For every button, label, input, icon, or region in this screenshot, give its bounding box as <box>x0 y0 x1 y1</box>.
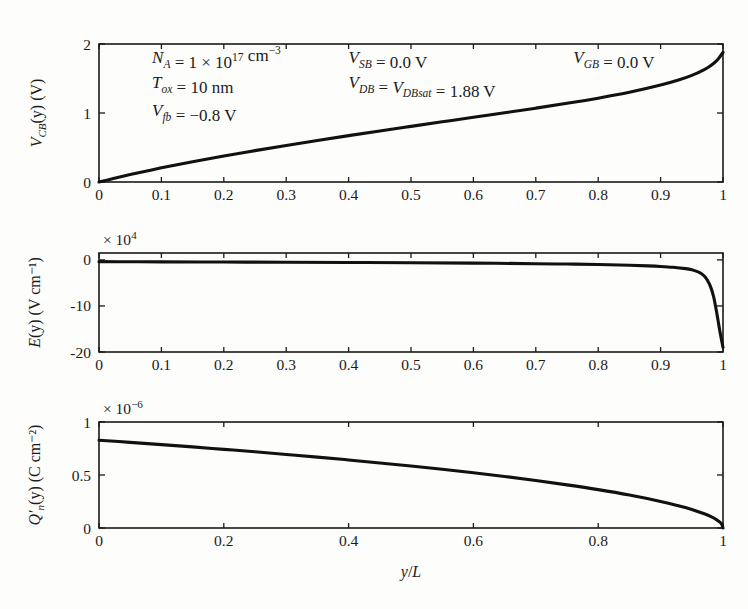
x-tick-label: 0.4 <box>339 532 359 549</box>
x-tick-label: 1 <box>719 356 727 373</box>
x-tick-label: 0.6 <box>464 186 484 203</box>
y-tick-label: 1 <box>83 105 91 122</box>
figure-root: 00.10.20.30.40.50.60.70.80.91012VCB(y) (… <box>0 0 748 609</box>
axis-exponent: × 104 <box>103 229 137 248</box>
annotation-vcb-1: Tox = 10 nm <box>152 73 233 97</box>
x-tick-label: 0.6 <box>464 532 484 549</box>
x-tick-label: 0.8 <box>589 532 609 549</box>
x-tick-label: 1 <box>719 532 727 549</box>
x-tick-label: 0 <box>95 532 103 549</box>
x-tick-label: 0.8 <box>589 356 609 373</box>
annotation-vcb-4: VDB = VDBsat = 1.88 V <box>349 73 497 101</box>
y-tick-label: -10 <box>70 297 91 314</box>
x-tick-label: 0.3 <box>277 186 297 203</box>
x-tick-label: 0.6 <box>464 356 484 373</box>
x-tick-label: 0.5 <box>401 186 421 203</box>
x-axis-label: y/L <box>399 563 422 581</box>
x-tick-label: 0 <box>95 186 103 203</box>
panel-qn: 00.20.40.60.8100.51× 10−6Q′n(y) (C cm⁻²) <box>26 398 727 549</box>
x-tick-label: 0.9 <box>651 186 671 203</box>
y-tick-label: 0.5 <box>72 467 92 484</box>
annotation-vcb-3: VSB = 0.0 V <box>349 48 428 72</box>
y-tick-label: 2 <box>83 36 91 53</box>
x-tick-label: 0.1 <box>152 186 171 203</box>
y-tick-label: 0 <box>83 520 91 537</box>
x-tick-label: 0.3 <box>277 356 297 373</box>
x-tick-label: 0.2 <box>214 186 233 203</box>
x-tick-label: 0.1 <box>152 356 171 373</box>
annotation-vcb-0: NA = 1 × 1017 cm−3 <box>151 44 281 72</box>
x-tick-label: 0.7 <box>526 356 546 373</box>
x-tick-label: 0.9 <box>651 356 671 373</box>
y-axis-label: VCB(y) (V) <box>28 79 48 148</box>
y-axis-label: E(y) (V cm⁻¹) <box>26 257 44 349</box>
x-tick-label: 1 <box>719 186 727 203</box>
x-tick-label: 0.7 <box>526 186 546 203</box>
annotation-vcb-5: VGB = 0.0 V <box>573 48 655 72</box>
x-tick-label: 0 <box>95 356 103 373</box>
y-tick-label: 0 <box>83 251 91 268</box>
annotation-vcb-2: Vfb = −0.8 V <box>152 101 237 125</box>
x-tick-label: 0.5 <box>401 356 421 373</box>
plot-frame <box>99 422 723 528</box>
y-tick-label: -20 <box>70 344 91 361</box>
data-curve-efield <box>99 262 723 348</box>
panel-efield: 00.10.20.30.40.50.60.70.80.910-10-20× 10… <box>26 229 727 373</box>
x-tick-label: 0.4 <box>339 186 359 203</box>
x-tick-label: 0.2 <box>214 532 233 549</box>
x-tick-label: 0.2 <box>214 356 233 373</box>
panel-vcb: 00.10.20.30.40.50.60.70.80.91012VCB(y) (… <box>28 36 727 204</box>
x-tick-label: 0.4 <box>339 356 359 373</box>
y-tick-label: 0 <box>83 174 91 191</box>
axis-exponent: × 10−6 <box>103 398 143 417</box>
y-axis-label: Q′n(y) (C cm⁻²) <box>26 425 46 526</box>
y-tick-label: 1 <box>83 414 91 431</box>
plot-frame <box>99 253 723 352</box>
data-curve-qn <box>99 440 723 528</box>
x-tick-label: 0.8 <box>589 186 609 203</box>
